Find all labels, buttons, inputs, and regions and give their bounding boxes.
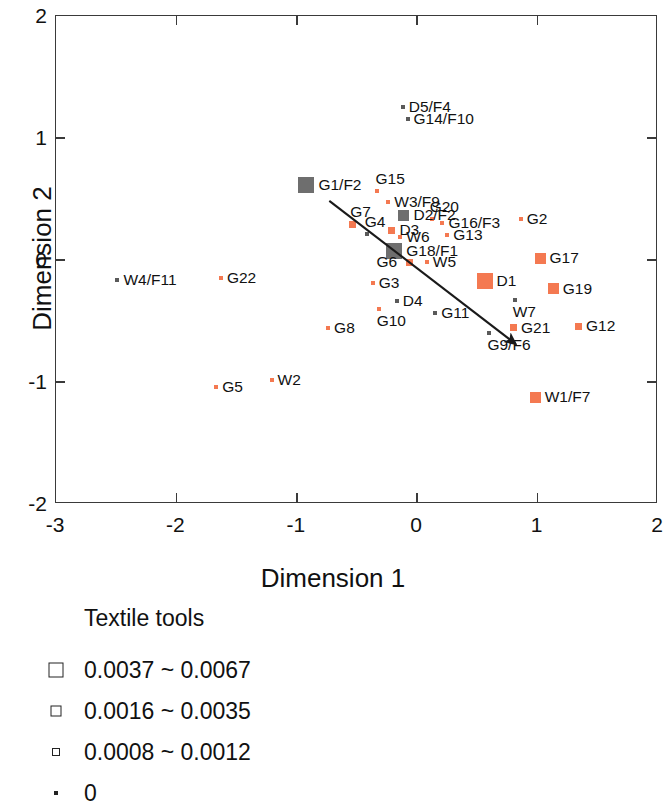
data-point-marker bbox=[575, 323, 582, 330]
data-point-marker bbox=[433, 311, 437, 315]
data-point-marker bbox=[270, 378, 274, 382]
x-tick-top bbox=[296, 16, 298, 25]
data-point-marker bbox=[377, 307, 381, 311]
data-point-marker bbox=[388, 227, 395, 234]
data-point-label: G9/F6 bbox=[487, 337, 530, 353]
data-point-marker bbox=[365, 232, 369, 236]
data-point-marker bbox=[406, 117, 410, 121]
x-axis-title: Dimension 1 bbox=[0, 563, 666, 594]
data-point-marker bbox=[375, 189, 379, 193]
data-point-marker bbox=[398, 210, 409, 221]
data-point-label: G4 bbox=[365, 214, 386, 230]
x-tick-label: -2 bbox=[153, 514, 197, 535]
data-point-label: G15 bbox=[375, 171, 404, 187]
y-tick-label: 0 bbox=[7, 249, 47, 270]
data-point-marker bbox=[548, 283, 559, 294]
data-point-label: W4/F11 bbox=[123, 272, 176, 288]
data-point-label: G17 bbox=[550, 250, 579, 266]
data-point-label: G3 bbox=[379, 275, 400, 291]
y-tick-label: 1 bbox=[7, 127, 47, 148]
data-point-label: G12 bbox=[586, 318, 615, 334]
x-tick-top bbox=[176, 16, 178, 25]
data-point-marker bbox=[510, 324, 517, 331]
legend: Textile tools 0.0037 ~ 0.00670.0016 ~ 0.… bbox=[0, 605, 666, 793]
legend-title: Textile tools bbox=[84, 605, 204, 632]
data-point-label: G5 bbox=[222, 379, 243, 395]
y-tick-left bbox=[56, 137, 65, 139]
data-point-marker bbox=[326, 326, 330, 330]
legend-item[interactable]: 0.0008 ~ 0.0012 bbox=[36, 735, 436, 771]
legend-item[interactable]: 0.0037 ~ 0.0067 bbox=[36, 653, 436, 689]
data-point-marker bbox=[219, 276, 223, 280]
data-point-marker bbox=[298, 177, 314, 193]
data-point-marker bbox=[535, 253, 546, 264]
data-point-marker bbox=[115, 278, 119, 282]
data-point-marker bbox=[386, 200, 390, 204]
data-point-label: G22 bbox=[227, 270, 256, 286]
legend-swatch-wrap bbox=[36, 653, 76, 687]
data-point-label: G2 bbox=[527, 211, 548, 227]
data-point-marker bbox=[349, 221, 356, 228]
data-point-label: W1/F7 bbox=[545, 389, 591, 405]
legend-swatch-wrap bbox=[36, 694, 76, 728]
data-point-label: G11 bbox=[441, 305, 469, 321]
y-tick-right bbox=[647, 259, 656, 261]
legend-item-label: 0.0016 ~ 0.0035 bbox=[84, 696, 251, 726]
data-point-label: G19 bbox=[563, 281, 592, 297]
data-point-marker bbox=[371, 281, 375, 285]
data-point-marker bbox=[406, 259, 413, 266]
data-point-label: G13 bbox=[453, 227, 482, 243]
x-tick-label: -3 bbox=[33, 514, 77, 535]
legend-square-icon bbox=[52, 748, 60, 756]
data-point-marker bbox=[401, 105, 405, 109]
data-point-label: W2 bbox=[278, 372, 301, 388]
data-point-marker bbox=[530, 392, 541, 403]
data-point-label: G14/F10 bbox=[414, 111, 474, 127]
y-tick-label: 2 bbox=[7, 5, 47, 26]
legend-item-label: 0 bbox=[84, 778, 97, 805]
y-tick-label: -1 bbox=[7, 371, 47, 392]
data-point-marker bbox=[425, 260, 429, 264]
y-tick-label: -2 bbox=[7, 493, 47, 514]
y-tick-left bbox=[56, 259, 65, 261]
data-point-label: G10 bbox=[377, 313, 406, 329]
data-point-label: G1/F2 bbox=[318, 177, 361, 193]
data-point-marker bbox=[487, 331, 491, 335]
data-point-label: G6 bbox=[376, 254, 397, 270]
legend-item-label: 0.0008 ~ 0.0012 bbox=[84, 737, 251, 767]
data-point-marker bbox=[395, 299, 399, 303]
legend-square-icon bbox=[54, 791, 58, 795]
data-point-label: W5 bbox=[433, 254, 456, 270]
x-tick-label: -1 bbox=[274, 514, 318, 535]
data-point-label: D1 bbox=[497, 273, 517, 289]
x-tick-top bbox=[537, 16, 539, 25]
legend-item[interactable]: 0 bbox=[36, 776, 436, 805]
data-point-marker bbox=[214, 385, 218, 389]
x-tick-label: 0 bbox=[394, 514, 438, 535]
legend-item-label: 0.0037 ~ 0.0067 bbox=[84, 655, 251, 685]
x-tick-top bbox=[416, 16, 418, 25]
legend-swatch-wrap bbox=[36, 735, 76, 769]
data-point-label: G8 bbox=[334, 320, 355, 336]
data-point-label: D4 bbox=[403, 293, 423, 309]
x-tick-bottom bbox=[176, 493, 178, 502]
x-tick-bottom bbox=[416, 493, 418, 502]
y-tick-right bbox=[647, 137, 656, 139]
data-point-marker bbox=[513, 298, 517, 302]
y-tick-right bbox=[647, 381, 656, 383]
legend-square-icon bbox=[49, 663, 64, 678]
plot-area: D5/F4G14/F10G1/F2G15W3/F9G20D2/F2G16/F3G… bbox=[55, 15, 657, 503]
x-tick-label: 2 bbox=[635, 514, 666, 535]
data-point-label: G21 bbox=[521, 320, 550, 336]
data-point-marker bbox=[445, 233, 449, 237]
x-tick-label: 1 bbox=[515, 514, 559, 535]
legend-square-icon bbox=[51, 706, 62, 717]
data-point-marker bbox=[519, 217, 523, 221]
data-point-label: W7 bbox=[513, 304, 536, 320]
data-point-marker bbox=[477, 273, 493, 289]
y-tick-left bbox=[56, 381, 65, 383]
x-tick-bottom bbox=[296, 493, 298, 502]
x-tick-bottom bbox=[537, 493, 539, 502]
legend-item[interactable]: 0.0016 ~ 0.0035 bbox=[36, 694, 436, 730]
